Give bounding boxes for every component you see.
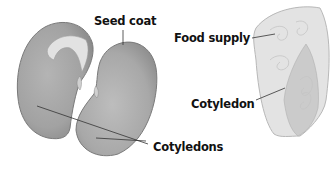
corn-kernel <box>254 7 329 137</box>
label-food-supply: Food supply <box>174 31 250 45</box>
label-seed-coat: Seed coat <box>94 14 156 28</box>
label-cotyledon: Cotyledon <box>191 97 255 111</box>
label-cotyledons: Cotyledons <box>153 140 223 154</box>
